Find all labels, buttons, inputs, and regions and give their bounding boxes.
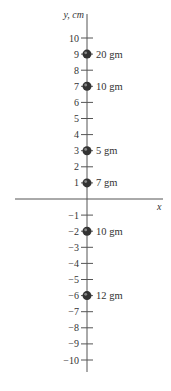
y-tick-label: 1	[74, 177, 79, 188]
mass-label: 20 gm	[96, 49, 123, 60]
mass-label: 10 gm	[96, 81, 123, 92]
mass-label: 7 gm	[96, 177, 117, 188]
point-mass-highlight	[84, 84, 87, 87]
point-mass-highlight	[84, 51, 87, 54]
y-tick-label: 9	[74, 49, 79, 60]
y-tick-label: −4	[68, 258, 79, 269]
point-mass-highlight	[84, 148, 87, 151]
y-tick-label: 8	[74, 65, 79, 76]
point-mass	[83, 227, 92, 236]
y-tick-label: 7	[74, 81, 79, 92]
point-mass	[83, 178, 92, 187]
y-tick-label: 2	[74, 161, 79, 172]
y-tick-label: −5	[68, 274, 79, 285]
y-tick-label: 4	[74, 129, 79, 140]
y-tick-label: 6	[74, 97, 79, 108]
y-tick-label: −8	[68, 322, 79, 333]
point-mass-highlight	[84, 180, 87, 183]
y-tick-label: −6	[68, 290, 79, 301]
point-mass-highlight	[84, 293, 87, 296]
point-mass	[83, 291, 92, 300]
y-tick-label: 10	[69, 33, 79, 44]
mass-label: 5 gm	[96, 145, 117, 156]
y-tick-label: −9	[68, 338, 79, 349]
y-tick-label: −2	[68, 226, 79, 237]
y-tick-label: −3	[68, 242, 79, 253]
x-axis-label: x	[156, 201, 162, 212]
point-mass-highlight	[84, 229, 87, 232]
mass-label: 10 gm	[96, 226, 123, 237]
y-tick-label: 3	[74, 145, 79, 156]
point-mass	[83, 82, 92, 91]
y-tick-label: 5	[74, 113, 79, 124]
mass-distribution-diagram: y, cm x 10987654321−1−2−3−4−5−6−7−8−9−10…	[0, 0, 171, 391]
point-mass	[83, 50, 92, 59]
y-axis-label: y, cm	[62, 9, 84, 20]
point-mass	[83, 146, 92, 155]
y-tick-label: −7	[68, 306, 79, 317]
y-tick-label: −1	[68, 210, 79, 221]
y-tick-label: −10	[63, 355, 79, 366]
mass-label: 12 gm	[96, 290, 123, 301]
